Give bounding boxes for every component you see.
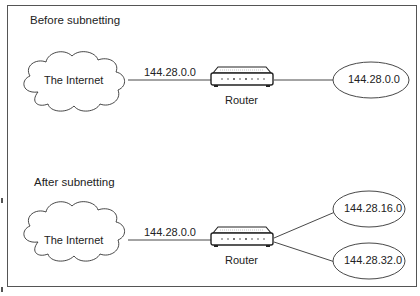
internet-cloud-label: The Internet [44,234,103,246]
link-address-label: 144.28.0.0 [144,66,196,78]
network-address-label: 144.28.0.0 [348,73,400,85]
router-label: Router [225,94,258,106]
network-diagram [0,0,420,296]
router-icon [211,227,273,247]
edge-mark [1,287,3,292]
router-icon [211,67,273,87]
link-address-label: 144.28.0.0 [144,226,196,238]
internet-cloud-icon [24,202,125,261]
after-subnetting-title: After subnetting [34,176,115,188]
internet-cloud-label: The Internet [44,74,103,86]
router-label: Router [225,254,258,266]
subnet-address-label: 144.28.16.0 [344,202,402,214]
edge-mark [1,198,3,203]
subnet-address-label: 144.28.32.0 [344,254,402,266]
before-subnetting-title: Before subnetting [30,14,120,26]
